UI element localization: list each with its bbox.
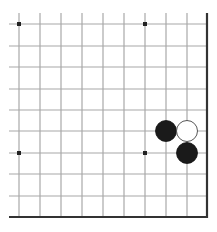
board-grid	[9, 13, 208, 218]
star-point-icon	[143, 22, 147, 26]
go-board[interactable]	[0, 0, 217, 232]
stones	[156, 121, 198, 164]
black-stone	[156, 121, 177, 142]
star-point-icon	[143, 151, 147, 155]
star-point-icon	[17, 22, 21, 26]
black-stone	[177, 143, 198, 164]
white-stone	[177, 121, 198, 142]
star-point-icon	[17, 151, 21, 155]
